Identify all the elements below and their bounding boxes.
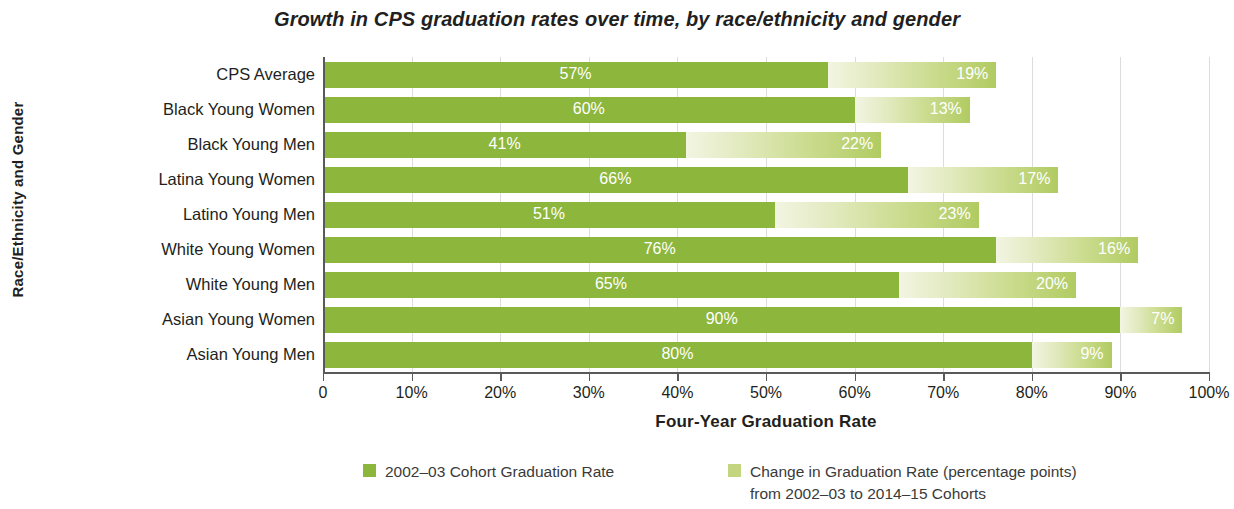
legend-swatch-change-icon bbox=[728, 464, 741, 477]
legend-label-change-line2: from 2002–03 to 2014–15 Cohorts bbox=[750, 483, 1077, 505]
bar-row[interactable]: 80%9% bbox=[323, 342, 1209, 368]
x-tick-label: 50% bbox=[750, 384, 782, 402]
bar-segment-change[interactable]: 9% bbox=[1032, 342, 1112, 368]
category-axis-labels: CPS AverageBlack Young WomenBlack Young … bbox=[20, 57, 315, 372]
category-label: White Young Men bbox=[25, 275, 315, 294]
category-label: Asian Young Women bbox=[25, 310, 315, 329]
bar-value-label-change: 19% bbox=[956, 65, 988, 83]
x-tick-mark bbox=[855, 372, 856, 381]
bar-value-label-base: 41% bbox=[489, 135, 521, 153]
x-tick-mark bbox=[677, 372, 678, 381]
bar-segment-base[interactable]: 66% bbox=[323, 167, 908, 193]
bar-segment-base[interactable]: 90% bbox=[323, 307, 1120, 333]
bar-value-label-base: 80% bbox=[661, 345, 693, 363]
x-tick-label: 60% bbox=[839, 384, 871, 402]
bar-value-label-change: 22% bbox=[841, 135, 873, 153]
bar-value-label-change: 13% bbox=[930, 100, 962, 118]
bar-value-label-change: 9% bbox=[1080, 345, 1103, 363]
bar-segment-change[interactable]: 16% bbox=[996, 237, 1138, 263]
y-axis-line bbox=[323, 57, 325, 372]
bar-row[interactable]: 57%19% bbox=[323, 62, 1209, 88]
bar-segment-base[interactable]: 51% bbox=[323, 202, 775, 228]
x-tick-label: 40% bbox=[661, 384, 693, 402]
bar-row[interactable]: 76%16% bbox=[323, 237, 1209, 263]
bar-segment-base[interactable]: 57% bbox=[323, 62, 828, 88]
bar-segment-base[interactable]: 65% bbox=[323, 272, 899, 298]
category-label: Black Young Women bbox=[25, 100, 315, 119]
category-label: CPS Average bbox=[25, 65, 315, 84]
legend-swatch-base-icon bbox=[363, 464, 376, 477]
x-tick-label: 90% bbox=[1104, 384, 1136, 402]
bar-segment-base[interactable]: 76% bbox=[323, 237, 996, 263]
chart-container: Growth in CPS graduation rates over time… bbox=[0, 0, 1234, 509]
bar-row[interactable]: 90%7% bbox=[323, 307, 1209, 333]
x-tick-label: 80% bbox=[1016, 384, 1048, 402]
x-tick-mark bbox=[1209, 372, 1210, 381]
bar-value-label-base: 51% bbox=[533, 205, 565, 223]
bar-value-label-base: 66% bbox=[599, 170, 631, 188]
bar-segment-base[interactable]: 60% bbox=[323, 97, 855, 123]
bar-segment-change[interactable]: 20% bbox=[899, 272, 1076, 298]
plot-area: 57%19%60%13%41%22%66%17%51%23%76%16%65%2… bbox=[323, 57, 1209, 372]
x-axis-title: Four-Year Graduation Rate bbox=[323, 412, 1209, 432]
legend-item-base[interactable]: 2002–03 Cohort Graduation Rate bbox=[363, 461, 614, 483]
x-tick-mark bbox=[589, 372, 590, 381]
x-tick-mark bbox=[323, 372, 324, 381]
x-tick-mark bbox=[1120, 372, 1121, 381]
x-tick-mark bbox=[1032, 372, 1033, 381]
category-label: White Young Women bbox=[25, 240, 315, 259]
x-tick-mark bbox=[943, 372, 944, 381]
bar-segment-change[interactable]: 13% bbox=[855, 97, 970, 123]
bar-value-label-base: 90% bbox=[706, 310, 738, 328]
category-label: Asian Young Men bbox=[25, 345, 315, 364]
x-tick-label: 30% bbox=[573, 384, 605, 402]
gridline bbox=[1209, 57, 1210, 372]
bar-segment-change[interactable]: 22% bbox=[686, 132, 881, 158]
x-tick-label: 100% bbox=[1189, 384, 1230, 402]
x-tick-label: 0 bbox=[319, 384, 328, 402]
legend-label-change: Change in Graduation Rate (percentage po… bbox=[750, 461, 1077, 505]
bar-value-label-base: 65% bbox=[595, 275, 627, 293]
x-tick-mark bbox=[412, 372, 413, 381]
x-tick-mark bbox=[766, 372, 767, 381]
bar-segment-change[interactable]: 23% bbox=[775, 202, 979, 228]
bar-row[interactable]: 66%17% bbox=[323, 167, 1209, 193]
x-tick-label: 20% bbox=[484, 384, 516, 402]
bar-value-label-change: 16% bbox=[1098, 240, 1130, 258]
bar-row[interactable]: 51%23% bbox=[323, 202, 1209, 228]
x-tick-label: 70% bbox=[927, 384, 959, 402]
bar-value-label-base: 60% bbox=[573, 100, 605, 118]
bar-segment-base[interactable]: 80% bbox=[323, 342, 1032, 368]
chart-legend: 2002–03 Cohort Graduation Rate Change in… bbox=[363, 461, 1223, 509]
bar-segment-change[interactable]: 19% bbox=[828, 62, 996, 88]
category-label: Latino Young Men bbox=[25, 205, 315, 224]
bar-value-label-base: 57% bbox=[559, 65, 591, 83]
bar-value-label-base: 76% bbox=[644, 240, 676, 258]
bar-row[interactable]: 65%20% bbox=[323, 272, 1209, 298]
legend-item-change[interactable]: Change in Graduation Rate (percentage po… bbox=[728, 461, 1077, 505]
bar-segment-change[interactable]: 7% bbox=[1120, 307, 1182, 333]
category-label: Black Young Men bbox=[25, 135, 315, 154]
bar-value-label-change: 7% bbox=[1151, 310, 1174, 328]
bar-value-label-change: 17% bbox=[1018, 170, 1050, 188]
bar-value-label-change: 20% bbox=[1036, 275, 1068, 293]
x-tick-label: 10% bbox=[396, 384, 428, 402]
legend-label-change-line1: Change in Graduation Rate (percentage po… bbox=[750, 463, 1077, 480]
x-tick-mark bbox=[500, 372, 501, 381]
chart-title: Growth in CPS graduation rates over time… bbox=[0, 8, 1234, 31]
category-label: Latina Young Women bbox=[25, 170, 315, 189]
bar-row[interactable]: 60%13% bbox=[323, 97, 1209, 123]
bar-segment-base[interactable]: 41% bbox=[323, 132, 686, 158]
bar-segment-change[interactable]: 17% bbox=[908, 167, 1059, 193]
legend-label-base: 2002–03 Cohort Graduation Rate bbox=[385, 461, 614, 483]
bar-row[interactable]: 41%22% bbox=[323, 132, 1209, 158]
bar-value-label-change: 23% bbox=[939, 205, 971, 223]
